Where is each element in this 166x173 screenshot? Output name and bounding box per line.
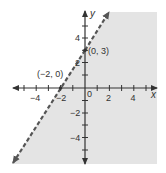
inequality-graph: x y (−2, 0) (0, 3) −4 −2 0 2 4 4 2 −2 −4 [0,0,166,173]
x-axis-label: x [150,89,157,100]
y-tick-label-2: 2 [75,58,80,68]
x-tick-label-neg4: −4 [30,93,40,103]
x-tick-label-0: 0 [87,89,92,99]
point-label-0-3: (0, 3) [88,46,109,56]
y-tick-label-neg4: −4 [70,133,80,143]
y-axis-label: y [89,8,96,19]
point-label-neg2-0: (−2, 0) [37,69,63,79]
point-0-3 [83,49,87,53]
x-tick-label-4: 4 [131,93,136,103]
point-neg2-0 [59,86,63,90]
y-tick-label-neg2: −2 [70,108,80,118]
x-tick-label-2: 2 [106,93,111,103]
y-tick-label-4: 4 [75,33,80,43]
x-tick-label-neg2: −2 [56,93,66,103]
